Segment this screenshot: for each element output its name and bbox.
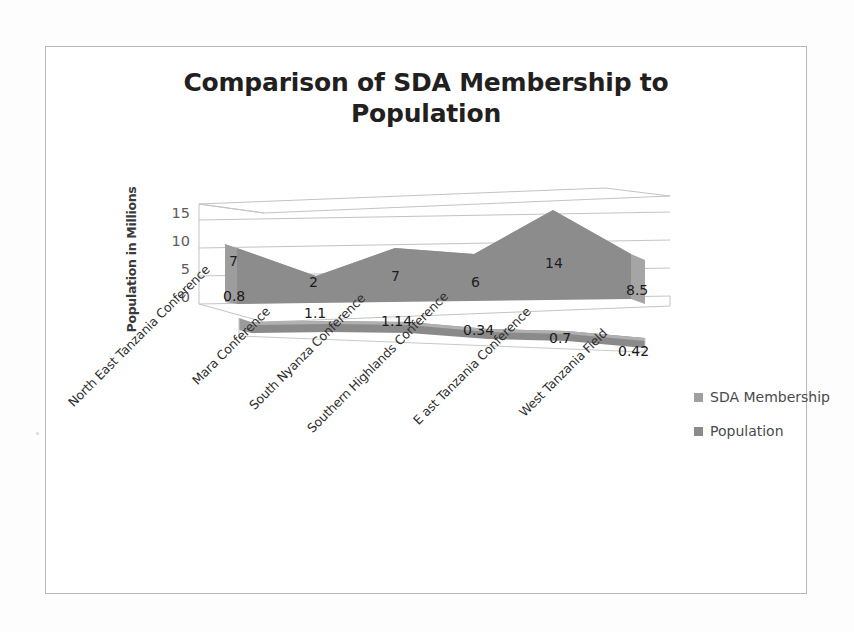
data-label-population-5: 8.5 xyxy=(626,282,648,298)
legend-label-sda-membership: SDA Membership xyxy=(710,389,830,405)
chart-frame: Comparison of SDA Membership to Populati… xyxy=(45,46,807,594)
data-label-sda-1: 1.1 xyxy=(304,305,326,321)
scan-blemish xyxy=(36,432,39,435)
chart-legend: SDA Membership Population xyxy=(694,389,844,457)
data-label-population-2: 7 xyxy=(391,268,400,284)
data-label-sda-4: 0.7 xyxy=(549,330,571,346)
data-label-population-1: 2 xyxy=(309,274,318,290)
legend-item-population[interactable]: Population xyxy=(694,423,844,439)
data-label-sda-0: 0.8 xyxy=(223,288,245,304)
data-label-population-3: 6 xyxy=(471,274,480,290)
chart-title-line-1: Comparison of SDA Membership to xyxy=(136,67,716,98)
legend-swatch-sda-membership xyxy=(694,393,703,402)
data-label-population-0: 7 xyxy=(229,253,238,269)
data-label-population-4: 14 xyxy=(545,255,563,271)
legend-swatch-population xyxy=(694,427,703,436)
chart-title: Comparison of SDA Membership to Populati… xyxy=(136,67,716,130)
legend-item-sda-membership[interactable]: SDA Membership xyxy=(694,389,844,405)
data-label-sda-5: 0.42 xyxy=(618,343,649,359)
scanned-page: Comparison of SDA Membership to Populati… xyxy=(0,0,854,632)
y-axis-title: Population in Millions xyxy=(124,170,139,350)
chart-title-line-2: Population xyxy=(136,98,716,129)
series-population xyxy=(225,210,645,304)
legend-label-population: Population xyxy=(710,423,784,439)
